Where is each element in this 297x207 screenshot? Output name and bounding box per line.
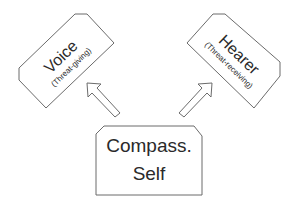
- self-line2: Self: [133, 163, 166, 184]
- arrow-to-voice-icon: [87, 83, 120, 117]
- diagram-canvas: Voice (Threat-giving) Hearer (Threat-rec…: [0, 0, 297, 207]
- compassionate-self-node: Compass. Self: [96, 126, 202, 195]
- self-line1: Compass.: [106, 135, 192, 156]
- arrow-to-hearer-icon: [179, 83, 212, 117]
